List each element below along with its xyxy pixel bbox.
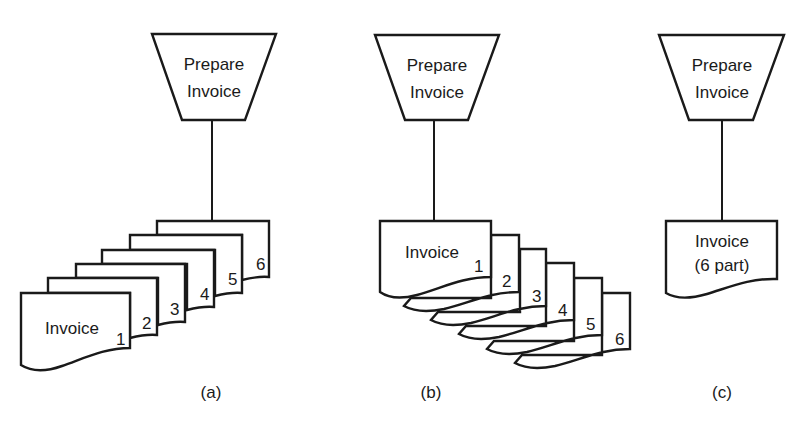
process-label-line1: Prepare <box>184 55 244 74</box>
copy-number-2: 2 <box>502 272 511 291</box>
document-sub-label: (6 part) <box>695 256 750 275</box>
process-label-line1: Prepare <box>692 56 752 75</box>
caption-b: (b) <box>421 383 442 402</box>
process-label-line2: Invoice <box>695 83 749 102</box>
diagram-a: Prepare Invoice 6 5 4 3 2 Invoice 1 (a) <box>21 34 276 402</box>
manual-operation-prepare-invoice-b <box>375 35 499 120</box>
diagram-c: Prepare Invoice Invoice (6 part) (c) <box>659 35 784 402</box>
copy-number-1: 1 <box>474 257 483 276</box>
copy-number-4: 4 <box>200 285 209 304</box>
process-label-line1: Prepare <box>407 56 467 75</box>
caption-a: (a) <box>201 383 222 402</box>
copy-number-1: 1 <box>116 330 125 349</box>
copy-number-4: 4 <box>558 301 567 320</box>
invoice-flowchart-figure: Prepare Invoice 6 5 4 3 2 Invoice 1 (a) … <box>0 0 803 431</box>
copy-number-6: 6 <box>615 330 624 349</box>
copy-number-3: 3 <box>170 300 179 319</box>
diagram-b: Prepare Invoice 6 5 4 3 2 Invoice 1 (b) <box>375 35 630 402</box>
manual-operation-prepare-invoice-a <box>152 34 276 120</box>
copy-number-2: 2 <box>142 314 151 333</box>
copy-number-3: 3 <box>532 287 541 306</box>
process-label-line2: Invoice <box>410 83 464 102</box>
manual-operation-prepare-invoice-c <box>659 35 784 120</box>
document-label: Invoice <box>45 319 99 338</box>
process-label-line2: Invoice <box>187 82 241 101</box>
copy-number-6: 6 <box>256 255 265 274</box>
caption-c: (c) <box>712 383 732 402</box>
copy-number-5: 5 <box>228 270 237 289</box>
copy-number-5: 5 <box>586 315 595 334</box>
document-label: Invoice <box>695 232 749 251</box>
document-label: Invoice <box>405 243 459 262</box>
